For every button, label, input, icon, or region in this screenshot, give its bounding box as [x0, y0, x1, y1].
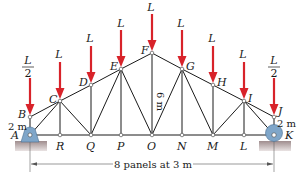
label-M: M: [206, 140, 219, 153]
label-G: G: [186, 60, 195, 73]
truss-diagram: 8 panels at 3 m: [0, 0, 302, 188]
ground-right: [259, 141, 291, 151]
joint-F: [150, 51, 154, 55]
load-label-H: L: [207, 32, 215, 45]
load-arrow-B: [26, 78, 35, 115]
load-label-B-num: L: [23, 54, 31, 67]
load-label-E: L: [116, 17, 124, 30]
label-Q: Q: [86, 140, 95, 153]
load-label-J-num: L: [269, 54, 277, 67]
load-label-G: L: [176, 17, 184, 30]
load-label-D: L: [85, 32, 93, 45]
label-I: I: [247, 92, 253, 105]
load-label-J-den: 2: [271, 67, 278, 80]
label-L: L: [239, 140, 247, 153]
joint-C: [58, 99, 62, 103]
load-label-I: L: [238, 48, 246, 61]
load-label-F: L: [146, 1, 154, 14]
joint-Q: [89, 133, 93, 137]
label-F: F: [140, 44, 149, 57]
joint-M: [211, 133, 215, 137]
joint-N: [180, 133, 184, 137]
label-O: O: [147, 140, 156, 153]
joint-P: [119, 133, 123, 137]
ground-left: [15, 141, 47, 151]
label-R: R: [55, 140, 64, 153]
center-height-label: 6 m: [155, 92, 166, 112]
joint-G: [180, 67, 184, 71]
label-E: E: [109, 60, 118, 73]
load-arrow-D: [87, 46, 96, 83]
left-height-label: 2 m: [8, 121, 28, 132]
label-K: K: [284, 129, 294, 142]
label-B: B: [17, 108, 26, 121]
member-MI: [213, 101, 244, 135]
joint-R: [58, 133, 62, 137]
joint-D: [89, 83, 93, 87]
joint-E: [119, 67, 123, 71]
span-dimension: 8 panels at 3 m: [31, 159, 273, 170]
member-CQ: [60, 101, 91, 135]
member-QE: [91, 69, 121, 135]
label-N: N: [176, 140, 187, 153]
joint-L: [242, 133, 246, 137]
joint-O: [150, 133, 154, 137]
label-P: P: [116, 140, 125, 153]
joint-J: [272, 115, 276, 119]
load-label-C: L: [54, 48, 62, 61]
load-label-B-den: 2: [25, 67, 32, 80]
truss-members: [30, 53, 274, 135]
label-C: C: [49, 93, 58, 106]
label-J: J: [276, 105, 283, 118]
label-D: D: [78, 76, 88, 89]
load-arrow-F: [148, 14, 157, 51]
joint-B: [28, 115, 32, 119]
joint-I: [242, 99, 246, 103]
member-EO: [121, 69, 152, 135]
label-H: H: [216, 76, 227, 89]
joint-H: [211, 83, 215, 87]
span-label: 8 panels at 3 m: [114, 159, 192, 170]
right-height-label: 2 m: [277, 118, 297, 129]
member-GM: [182, 69, 213, 135]
